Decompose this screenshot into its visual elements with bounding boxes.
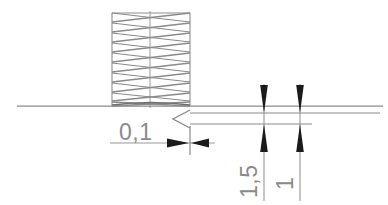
drawing-vector-layer: 0,1 1,5 1	[0, 0, 388, 205]
dimension-label-1-5: 1,5	[236, 165, 262, 198]
dimension-0-1-arrow-left	[167, 139, 189, 148]
spring-coil-strands	[112, 13, 190, 106]
dimension-0-1-arrow-right	[191, 139, 209, 148]
surface-finish-triangle-icon	[173, 110, 190, 128]
dimension-label-1: 1	[272, 177, 298, 190]
dimension-label-0-1: 0,1	[119, 119, 152, 145]
technical-drawing-canvas: 0,1 1,5 1	[0, 0, 388, 205]
coil-spring-group	[112, 11, 190, 108]
dimension-1-arrow-top	[296, 85, 304, 113]
dimension-1-5-arrow-top	[260, 85, 268, 113]
dimension-1-arrow-bottom	[296, 124, 304, 152]
dimension-1-5-arrow-bottom	[260, 124, 268, 152]
